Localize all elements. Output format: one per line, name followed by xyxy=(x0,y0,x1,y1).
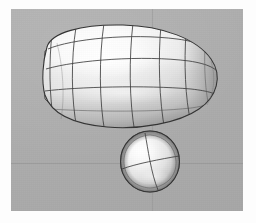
surface-canvas xyxy=(11,9,243,211)
ellipsoid-specular-highlight xyxy=(61,45,157,77)
sphere[interactable] xyxy=(121,131,180,192)
ellipsoid-capsule[interactable] xyxy=(43,19,225,135)
sphere-specular-highlight xyxy=(126,140,156,162)
application-window: 3D Modeling Viewport Perspective Smooth … xyxy=(0,0,256,223)
ellipsoid-right-rim-shading xyxy=(179,19,225,135)
perspective-viewport[interactable] xyxy=(11,9,243,211)
